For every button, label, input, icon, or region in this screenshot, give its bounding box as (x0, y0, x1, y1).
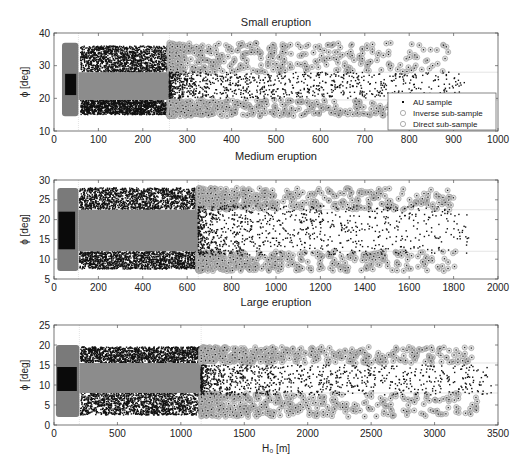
au-sample-point (188, 73, 189, 74)
au-sample-point (425, 391, 426, 392)
au-sample-point (335, 361, 336, 362)
au-sample-point (135, 261, 136, 262)
au-sample-point (362, 94, 363, 95)
au-sample-point (466, 367, 467, 368)
au-sample-point (214, 395, 215, 396)
au-sample-point (169, 198, 170, 199)
au-sample-point (403, 372, 404, 373)
au-sample-point (252, 70, 253, 71)
au-sample-point (246, 91, 247, 92)
au-sample-point (161, 100, 162, 101)
au-sample-point (127, 114, 128, 115)
au-sample-point (218, 213, 219, 214)
au-sample-point (469, 383, 470, 384)
au-sample-point (382, 89, 383, 90)
au-sample-point (411, 214, 412, 215)
au-sample-point (149, 49, 150, 50)
au-sample-point (432, 369, 433, 370)
au-sample-point (183, 51, 184, 52)
au-sample-point (274, 244, 275, 245)
au-sample-point (117, 67, 118, 68)
au-sample-point (294, 235, 295, 236)
au-sample-point (168, 262, 169, 263)
au-sample-point (163, 200, 164, 201)
au-sample-point (226, 387, 227, 388)
au-sample-point (258, 111, 259, 112)
x-tick-label: 100 (90, 134, 107, 145)
au-sample-point (190, 394, 191, 395)
au-sample-point (123, 189, 124, 190)
au-sample-point (214, 390, 215, 391)
au-sample-point (198, 252, 199, 253)
au-sample-point (113, 413, 114, 414)
au-sample-point (219, 114, 220, 115)
au-sample-point (351, 385, 352, 386)
au-sample-point (257, 91, 258, 92)
au-sample-point (216, 231, 217, 232)
au-sample-point (173, 93, 174, 94)
au-sample-point (320, 231, 321, 232)
au-sample-point (184, 397, 185, 398)
au-sample-point (152, 257, 153, 258)
au-sample-point (241, 392, 242, 393)
au-sample-point (366, 253, 367, 254)
au-sample-point (134, 45, 135, 46)
au-sample-point (375, 217, 376, 218)
au-sample-point (133, 397, 134, 398)
au-sample-point (385, 248, 386, 249)
au-sample-point (147, 349, 148, 350)
au-sample-point (222, 231, 223, 232)
au-sample-point (438, 247, 439, 248)
au-sample-point (92, 102, 93, 103)
au-sample-point (409, 367, 410, 368)
au-sample-point (335, 399, 336, 400)
au-sample-point (388, 64, 389, 65)
au-sample-point (380, 249, 381, 250)
au-sample-point (410, 268, 411, 269)
au-sample-point (146, 64, 147, 65)
au-sample-point (295, 192, 296, 193)
au-sample-point (219, 253, 220, 254)
au-sample-point (174, 260, 175, 261)
au-sample-point (304, 362, 305, 363)
au-sample-point (380, 380, 381, 381)
au-sample-point (397, 393, 398, 394)
au-sample-point (135, 112, 136, 113)
au-sample-point (159, 393, 160, 394)
au-sample-point (346, 69, 347, 70)
au-sample-point (218, 80, 219, 81)
au-sample-point (202, 216, 203, 217)
au-sample-point (229, 257, 230, 258)
au-sample-point (141, 414, 142, 415)
au-sample-point (337, 381, 338, 382)
au-sample-point (128, 268, 129, 269)
au-sample-point (96, 412, 97, 413)
au-sample-point (94, 193, 95, 194)
au-sample-point (125, 254, 126, 255)
au-sample-point (115, 403, 116, 404)
au-sample-point (111, 202, 112, 203)
au-sample-point (373, 390, 374, 391)
au-sample-point (114, 360, 115, 361)
au-sample-point (242, 235, 243, 236)
au-sample-point (181, 396, 182, 397)
au-sample-point (198, 239, 199, 240)
au-sample-point (434, 371, 435, 372)
au-sample-point (130, 100, 131, 101)
au-sample-point (207, 60, 208, 61)
au-sample-point (205, 71, 206, 72)
au-sample-point (112, 359, 113, 360)
au-sample-point (273, 69, 274, 70)
au-sample-point (188, 259, 189, 260)
au-sample-point (220, 92, 221, 93)
au-sample-point (182, 361, 183, 362)
au-sample-point (429, 368, 430, 369)
au-sample-point (98, 412, 99, 413)
au-sample-point (119, 66, 120, 67)
au-sample-point (180, 89, 181, 90)
au-sample-point (204, 240, 205, 241)
au-sample-point (162, 188, 163, 189)
au-sample-point (257, 221, 258, 222)
au-sample-point (190, 351, 191, 352)
au-sample-point (105, 256, 106, 257)
